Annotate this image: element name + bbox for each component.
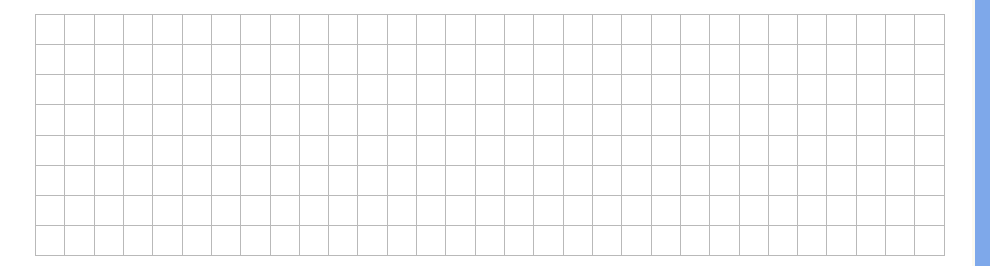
grid-cell[interactable] <box>94 105 123 135</box>
grid-cell[interactable] <box>65 75 94 105</box>
grid-cell[interactable] <box>241 45 270 75</box>
grid-cell[interactable] <box>358 45 387 75</box>
grid-cell[interactable] <box>739 75 768 105</box>
grid-cell[interactable] <box>387 195 416 225</box>
grid-cell[interactable] <box>592 165 621 195</box>
grid-cell[interactable] <box>505 75 534 105</box>
grid-cell[interactable] <box>680 75 709 105</box>
grid-cell[interactable] <box>387 225 416 255</box>
grid-cell[interactable] <box>94 75 123 105</box>
grid-cell[interactable] <box>65 225 94 255</box>
grid-cell[interactable] <box>768 75 797 105</box>
grid-cell[interactable] <box>680 195 709 225</box>
grid-cell[interactable] <box>915 75 945 105</box>
grid-cell[interactable] <box>505 105 534 135</box>
grid-cell[interactable] <box>505 165 534 195</box>
grid-cell[interactable] <box>856 15 885 45</box>
grid-cell[interactable] <box>505 135 534 165</box>
grid-cell[interactable] <box>710 75 739 105</box>
grid-cell[interactable] <box>534 165 563 195</box>
grid-cell[interactable] <box>622 15 651 45</box>
grid-cell[interactable] <box>358 165 387 195</box>
grid-cell[interactable] <box>592 45 621 75</box>
grid-cell[interactable] <box>768 105 797 135</box>
grid-cell[interactable] <box>739 45 768 75</box>
grid-cell[interactable] <box>592 195 621 225</box>
grid-cell[interactable] <box>446 15 475 45</box>
grid-cell[interactable] <box>182 45 211 75</box>
grid-cell[interactable] <box>886 135 915 165</box>
grid-cell[interactable] <box>94 225 123 255</box>
grid-cell[interactable] <box>563 45 592 75</box>
grid-cell[interactable] <box>651 75 680 105</box>
grid-cell[interactable] <box>123 15 152 45</box>
grid-cell[interactable] <box>358 105 387 135</box>
grid-cell[interactable] <box>798 195 827 225</box>
grid-cell[interactable] <box>651 165 680 195</box>
grid-cell[interactable] <box>65 195 94 225</box>
grid-cell[interactable] <box>182 165 211 195</box>
grid-cell[interactable] <box>534 75 563 105</box>
grid-cell[interactable] <box>211 15 240 45</box>
side-panel-strip[interactable] <box>975 0 990 266</box>
grid-cell[interactable] <box>710 45 739 75</box>
grid-cell[interactable] <box>798 75 827 105</box>
grid-cell[interactable] <box>475 195 504 225</box>
grid-cell[interactable] <box>798 165 827 195</box>
grid-cell[interactable] <box>563 75 592 105</box>
grid-cell[interactable] <box>299 45 328 75</box>
grid-cell[interactable] <box>387 135 416 165</box>
grid-cell[interactable] <box>856 225 885 255</box>
grid-cell[interactable] <box>211 165 240 195</box>
grid-cell[interactable] <box>123 135 152 165</box>
grid-cell[interactable] <box>94 195 123 225</box>
grid-cell[interactable] <box>211 75 240 105</box>
grid-cell[interactable] <box>446 45 475 75</box>
grid-cell[interactable] <box>446 225 475 255</box>
grid-cell[interactable] <box>211 105 240 135</box>
grid-cell[interactable] <box>505 15 534 45</box>
grid-cell[interactable] <box>94 165 123 195</box>
grid-cell[interactable] <box>475 15 504 45</box>
grid-cell[interactable] <box>915 45 945 75</box>
grid-cell[interactable] <box>475 165 504 195</box>
grid-cell[interactable] <box>886 15 915 45</box>
grid-cell[interactable] <box>182 15 211 45</box>
grid-cell[interactable] <box>739 195 768 225</box>
grid-cell[interactable] <box>446 165 475 195</box>
grid-cell[interactable] <box>153 225 182 255</box>
grid-cell[interactable] <box>123 75 152 105</box>
grid-cell[interactable] <box>915 165 945 195</box>
grid-cell[interactable] <box>534 105 563 135</box>
grid-cell[interactable] <box>827 165 856 195</box>
grid-cell[interactable] <box>36 45 65 75</box>
grid-cell[interactable] <box>563 135 592 165</box>
grid-cell[interactable] <box>651 195 680 225</box>
grid-cell[interactable] <box>680 105 709 135</box>
grid-cell[interactable] <box>241 15 270 45</box>
grid-cell[interactable] <box>299 225 328 255</box>
grid-cell[interactable] <box>534 225 563 255</box>
grid-cell[interactable] <box>886 45 915 75</box>
grid-cell[interactable] <box>153 105 182 135</box>
grid-cell[interactable] <box>768 45 797 75</box>
grid-cell[interactable] <box>123 165 152 195</box>
grid-cell[interactable] <box>651 135 680 165</box>
grid-cell[interactable] <box>446 105 475 135</box>
grid-cell[interactable] <box>592 75 621 105</box>
grid-cell[interactable] <box>563 165 592 195</box>
grid-cell[interactable] <box>94 15 123 45</box>
grid-cell[interactable] <box>856 45 885 75</box>
grid-cell[interactable] <box>387 105 416 135</box>
grid-cell[interactable] <box>241 105 270 135</box>
grid-cell[interactable] <box>886 225 915 255</box>
grid-cell[interactable] <box>299 135 328 165</box>
grid-cell[interactable] <box>827 75 856 105</box>
grid-cell[interactable] <box>299 105 328 135</box>
grid-cell[interactable] <box>36 225 65 255</box>
grid-cell[interactable] <box>387 165 416 195</box>
grid-cell[interactable] <box>153 195 182 225</box>
grid-cell[interactable] <box>211 135 240 165</box>
grid-cell[interactable] <box>211 45 240 75</box>
grid-cell[interactable] <box>592 135 621 165</box>
